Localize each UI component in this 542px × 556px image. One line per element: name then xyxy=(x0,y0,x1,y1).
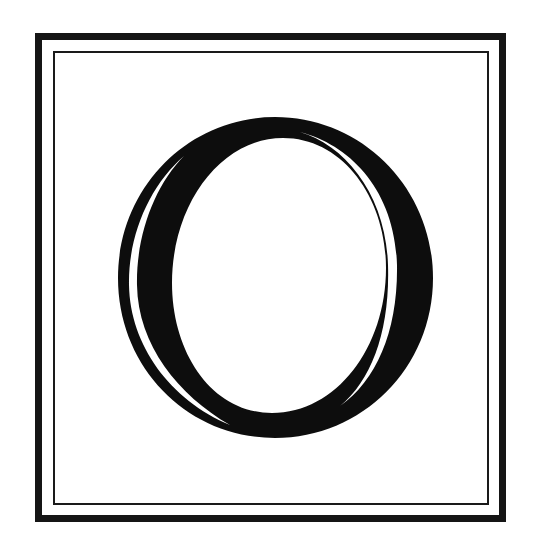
letter-o-glyph xyxy=(0,0,542,556)
letter-o-stroke xyxy=(118,117,433,438)
